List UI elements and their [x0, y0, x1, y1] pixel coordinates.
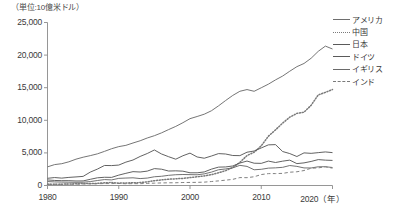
x-axis-tick-label: 2000: [155, 192, 225, 202]
legend-item-label: 中国: [352, 26, 367, 37]
legend-item[interactable]: インド: [333, 75, 396, 87]
x-axis-tick-label-with-unit: 2020（年）: [288, 192, 358, 204]
series-line-1: [48, 90, 333, 185]
legend-line-swatch: [333, 40, 350, 48]
legend-item[interactable]: 日本: [333, 38, 396, 50]
legend-item[interactable]: 中国: [333, 25, 396, 37]
x-axis-tick-label: 1980: [13, 192, 83, 202]
x-axis-tick-label: 2010: [226, 192, 296, 202]
legend-item-label: 日本: [352, 38, 367, 49]
legend-line-swatch: [333, 52, 350, 60]
series-line-0: [48, 46, 333, 167]
legend-line-swatch: [333, 65, 350, 73]
legend-line-swatch: [333, 15, 350, 23]
legend-item[interactable]: アメリカ: [333, 13, 396, 25]
legend-item-label: インド: [352, 76, 375, 87]
y-axis-tick-label: 20,000: [2, 50, 42, 60]
x-axis-tick-label: 1990: [84, 192, 154, 202]
y-axis-tick-label: 15,000: [2, 82, 42, 92]
legend-item[interactable]: イギリス: [333, 63, 396, 75]
legend-line-swatch: [333, 77, 350, 85]
y-axis-tick-label: 5,000: [2, 147, 42, 157]
legend-item-label: アメリカ: [352, 14, 383, 25]
legend-item[interactable]: ドイツ: [333, 50, 396, 62]
gdp-line-chart: （単位:10億米ドル） 05,00010,00015,00020,00025,0…: [0, 0, 396, 218]
legend-line-swatch: [333, 28, 350, 36]
chart-legend: アメリカ中国日本ドイツイギリスインド: [333, 13, 396, 87]
y-axis-tick-label: 0: [2, 180, 42, 190]
y-axis-tick-label: 10,000: [2, 115, 42, 125]
y-axis-tick-label: 25,000: [2, 17, 42, 27]
legend-item-label: イギリス: [352, 63, 383, 74]
unit-label: （単位:10億米ドル）: [11, 1, 84, 12]
legend-item-label: ドイツ: [352, 51, 375, 62]
